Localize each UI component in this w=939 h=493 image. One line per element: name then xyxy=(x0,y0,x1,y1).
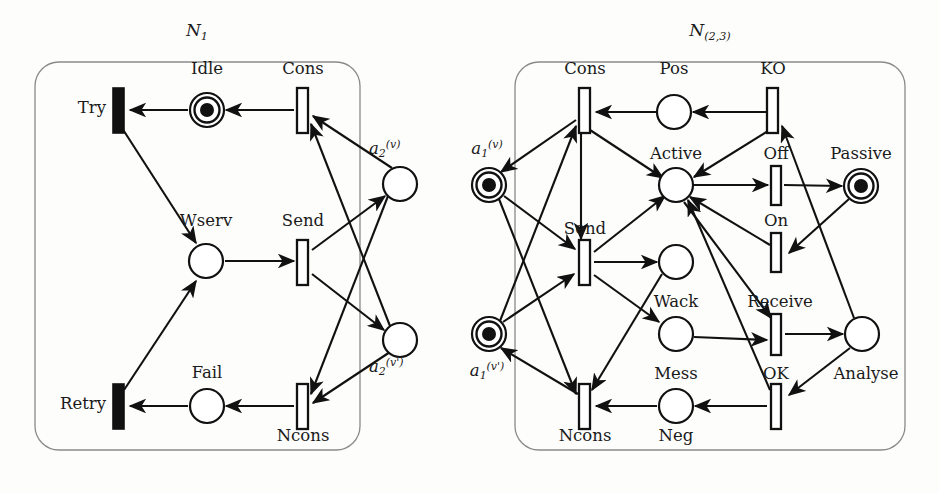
label-ncons-right: Ncons xyxy=(559,428,612,445)
place-wserv[interactable] xyxy=(189,244,223,278)
token-idle xyxy=(200,103,214,117)
label-a1-vprime: a1(v') xyxy=(470,362,504,382)
label-off: Off xyxy=(763,146,788,163)
transition-off[interactable] xyxy=(771,166,781,205)
label-cons-right: Cons xyxy=(564,61,606,78)
label-analyse: Analyse xyxy=(833,366,898,383)
label-pos: Pos xyxy=(660,61,689,78)
label-active: Active xyxy=(650,146,702,163)
label-retry: Retry xyxy=(60,396,106,413)
arc-ko-to-active xyxy=(694,131,768,177)
transition-send-left[interactable] xyxy=(297,240,308,285)
arc-wack-to-ncons xyxy=(592,274,662,390)
arc-cons-to-a1v xyxy=(501,120,576,172)
transition-retry[interactable] xyxy=(113,384,124,429)
label-a2-v: a2(v) xyxy=(369,140,400,160)
transition-ncons-right[interactable] xyxy=(579,384,590,429)
net-title-n1: N1 xyxy=(186,22,208,42)
label-idle: Idle xyxy=(191,61,223,78)
place-analyse[interactable] xyxy=(845,317,879,351)
arc-retry-to-wserv xyxy=(124,281,196,390)
label-receive: Receive xyxy=(747,294,813,311)
token-a1-v xyxy=(482,178,496,192)
net-title-n23: N(2,3) xyxy=(689,22,730,42)
label-mess: Mess xyxy=(654,366,698,383)
petri-net-canvas xyxy=(0,0,939,493)
label-a1-v: a1(v) xyxy=(471,140,502,160)
label-cons-left: Cons xyxy=(282,61,324,78)
place-pos[interactable] xyxy=(657,95,691,129)
label-send-right: Send xyxy=(564,221,606,238)
left-net-arcs xyxy=(122,110,392,406)
transition-cons-left[interactable] xyxy=(297,88,308,133)
place-wack[interactable] xyxy=(659,245,693,279)
transition-try[interactable] xyxy=(113,88,124,133)
label-fail: Fail xyxy=(192,365,223,382)
place-mess[interactable] xyxy=(659,317,693,351)
label-ncons-left: Ncons xyxy=(277,428,330,445)
place-active[interactable] xyxy=(659,168,693,202)
place-a2-vprime[interactable] xyxy=(383,323,417,357)
transition-ko[interactable] xyxy=(767,88,778,133)
place-neg[interactable] xyxy=(659,389,693,423)
transition-on[interactable] xyxy=(771,233,781,272)
transition-receive[interactable] xyxy=(771,314,781,355)
transition-send-right[interactable] xyxy=(579,240,590,285)
label-passive: Passive xyxy=(830,146,892,163)
label-neg: Neg xyxy=(659,428,694,445)
label-ko: KO xyxy=(760,61,785,78)
arc-mess-to-receive xyxy=(694,337,767,340)
place-a2-v[interactable] xyxy=(383,167,417,201)
label-wack: Wack xyxy=(654,294,699,311)
arc-on-to-active xyxy=(690,197,770,245)
arc-off-to-passive xyxy=(784,185,842,186)
token-a1-vprime xyxy=(482,327,496,341)
petri-net-figure: N1 N(2,3) Try Cons Send Ncons Retry Idle… xyxy=(0,0,939,493)
label-a2-vprime: a2(v') xyxy=(369,358,403,378)
transition-ok[interactable] xyxy=(771,384,781,429)
label-try: Try xyxy=(78,100,106,117)
transition-ncons-left[interactable] xyxy=(297,384,308,429)
label-on: On xyxy=(764,213,788,230)
arc-send-to-mess xyxy=(594,275,659,322)
label-wserv: Wserv xyxy=(180,213,232,230)
transition-cons-right[interactable] xyxy=(579,88,590,133)
label-ok: OK xyxy=(763,366,789,383)
label-send-left: Send xyxy=(282,213,324,230)
token-passive xyxy=(854,179,868,193)
place-fail[interactable] xyxy=(190,389,224,423)
